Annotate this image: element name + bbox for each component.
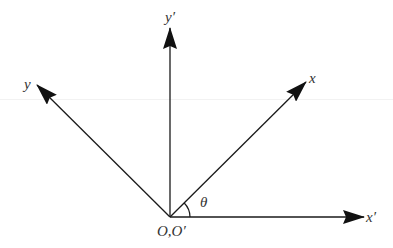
theta-label: θ [200,194,208,210]
x-label: x [308,70,316,86]
y-prime-label: y′ [163,9,176,25]
theta-arc [184,203,190,217]
y-axis [37,85,170,217]
x-prime-label: x′ [365,209,377,225]
rotated-axes-diagram: y′ y x x′ O,O′ θ [0,0,393,248]
y-label: y [22,76,31,92]
origin-label: O,O′ [157,223,186,239]
x-axis [170,82,306,217]
